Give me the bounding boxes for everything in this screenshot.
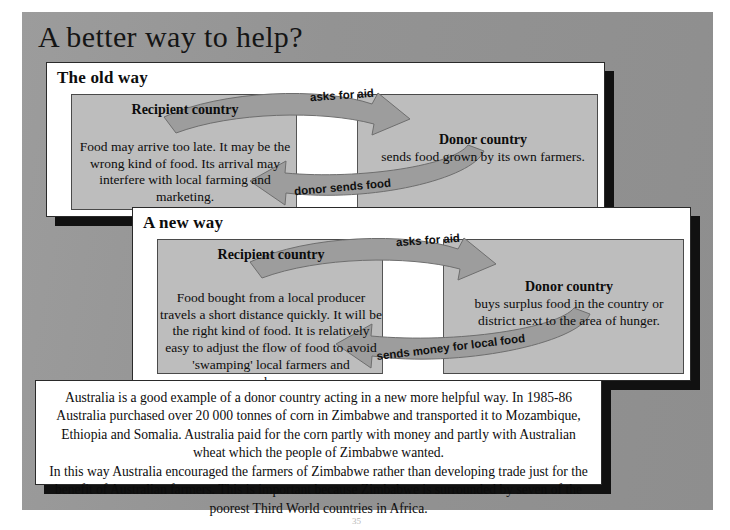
diagram-old-way: asks for aid donor sends food Recipient …	[71, 94, 598, 210]
summary-box: Australia is a good example of a donor c…	[35, 380, 602, 485]
new-donor-desc: buys surplus food in the country or dist…	[458, 296, 680, 329]
page-number: 35	[352, 516, 361, 526]
old-donor-name: Donor country	[372, 131, 594, 148]
panel-old-way: The old way asks for aid donor sends foo…	[46, 62, 605, 217]
page-title: A better way to help?	[38, 20, 303, 54]
new-donor-name: Donor country	[458, 278, 680, 295]
old-donor-desc: sends food grown by its own farmers.	[372, 149, 594, 165]
new-donor-block: Donor country buys surplus food in the c…	[458, 278, 680, 329]
summary-paragraph-1: Australia is a good example of a donor c…	[46, 389, 591, 463]
old-recipient-name: Recipient country	[78, 101, 292, 118]
poster-page: A better way to help? The old way asks f…	[22, 12, 713, 510]
panel-new-way: A new way asks for aid sends money for l…	[132, 207, 691, 381]
panel-new-way-heading: A new way	[143, 213, 223, 233]
old-donor-block: Donor country sends food grown by its ow…	[372, 131, 594, 166]
new-recipient-desc: Food bought from a local producer travel…	[160, 290, 382, 390]
arrow-label-new-top: asks for aid	[396, 232, 461, 248]
summary-paragraph-2: In this way Australia encouraged the far…	[46, 463, 591, 518]
new-recipient-block: Recipient country	[164, 246, 378, 264]
new-recipient-name: Recipient country	[164, 246, 378, 263]
diagram-new-way: asks for aid sends money for local food …	[157, 239, 684, 374]
old-recipient-desc: Food may arrive too late. It may be the …	[76, 139, 294, 206]
arrow-label-old-top: asks for aid	[310, 87, 375, 103]
panel-old-way-heading: The old way	[57, 68, 148, 88]
summary-text: Australia is a good example of a donor c…	[46, 389, 591, 518]
old-recipient-block: Recipient country	[78, 101, 292, 119]
